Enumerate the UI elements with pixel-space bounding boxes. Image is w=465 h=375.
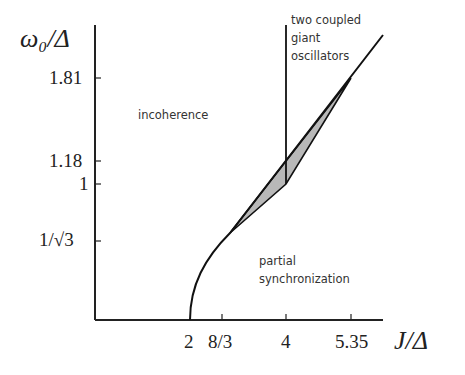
x-axis-title: J/Δ [394,328,428,354]
y-axis-title: ω₀/Δ [20,26,70,52]
y-tick-label: 1.18 [49,151,82,170]
region-label-giant: giant [291,33,320,45]
region-label-partial: partial [259,256,296,268]
y-tick-label: 1/√3 [39,230,74,249]
x-tick-label: 2 [184,332,194,351]
region-label-two-coupled: two coupled [291,15,361,27]
y-tick-label: 1.81 [49,68,82,87]
region-label-synchronization: synchronization [259,274,350,286]
x-tick-label: 8/3 [208,332,232,351]
x-tick-label: 4 [281,332,291,351]
diagram-canvas [0,0,465,375]
region-label-incoherence: incoherence [138,110,208,122]
y-tick-label: 1 [79,174,89,193]
region-label-oscillators: oscillators [291,51,349,63]
x-tick-label: 5.35 [335,332,368,351]
phase-diagram: ω₀/Δ J/Δ 1.81 1.18 1 1/√3 2 8/3 4 5.35 i… [0,0,465,375]
